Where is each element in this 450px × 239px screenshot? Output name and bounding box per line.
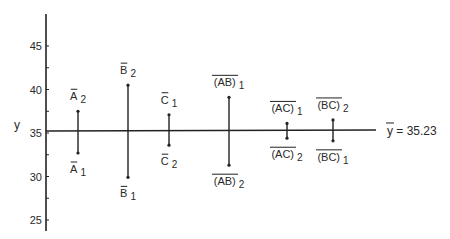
effect-level-label: C2	[161, 155, 178, 170]
y-tick-label: 40	[30, 84, 42, 96]
effect-interval-b: B2B1	[120, 63, 136, 202]
effect-level-label: (AB)2	[214, 175, 245, 190]
effect-level-label: B2	[120, 64, 136, 79]
effect-interval-bc: (BC)2(BC)1	[316, 98, 349, 166]
effect-interval-ac: (AC)1(AC)2	[270, 101, 303, 163]
effect-level-label: (AB)1	[214, 76, 245, 91]
effect-level-label: C1	[161, 94, 178, 109]
mean-label: y = 35.23	[387, 124, 437, 138]
effect-level-label: (AC)1	[271, 102, 303, 117]
mean-reference-line: y = 35.23	[46, 123, 437, 138]
y-tick-label: 35	[30, 127, 42, 139]
effect-interval-a: A2A1	[70, 89, 86, 178]
y-axis-label: y	[14, 118, 20, 132]
effect-intervals: A2A1B2B1C1C2(AB)1(AB)2(AC)1(AC)2(BC)2(BC…	[70, 63, 349, 202]
effect-level-label: A2	[70, 90, 86, 105]
effect-level-label: A1	[70, 163, 86, 178]
y-tick-label: 25	[30, 214, 42, 226]
effect-interval-c: C1C2	[161, 93, 178, 170]
y-tick-label: 30	[30, 171, 42, 183]
effect-level-label: B1	[120, 187, 136, 202]
effect-level-label: (BC)2	[317, 99, 349, 114]
y-tick-label: 45	[30, 40, 42, 52]
y-axis: 2530354045	[30, 14, 49, 231]
effect-interval-ab: (AB)1(AB)2	[212, 75, 245, 190]
effect-level-label: (BC)1	[317, 151, 349, 166]
effects-interval-chart: 2530354045 y y = 35.23 A2A1B2B1C1C2(AB)1…	[0, 0, 450, 239]
effect-level-label: (AC)2	[271, 148, 303, 163]
